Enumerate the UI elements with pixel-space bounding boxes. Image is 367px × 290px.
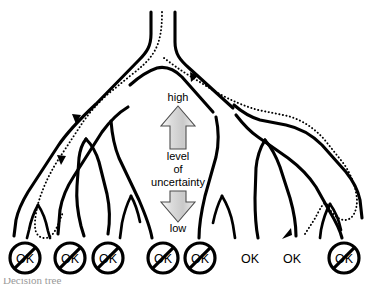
gauge-high-label: high: [168, 91, 189, 103]
gauge-down-arrow-icon: [161, 191, 195, 222]
right-branch-inner-edge: [236, 115, 342, 238]
gauge-level-label: level: [167, 150, 190, 162]
fork-inner-left: [130, 67, 213, 112]
center-left-branch: [111, 121, 152, 238]
leaf-marker-rejected[interactable]: OK: [55, 243, 85, 273]
left-outer-twig-right: [38, 205, 50, 238]
figure-root: high level of uncertainty low OKOKOKOKOK…: [0, 0, 367, 290]
uncertainty-tree-diagram: high level of uncertainty low OKOKOKOKOK…: [0, 0, 367, 290]
dotted-route-main: [35, 12, 162, 238]
leaf-ok-label: OK: [283, 252, 302, 266]
leaf-marker-rejected[interactable]: OK: [10, 243, 40, 273]
uncertainty-traversal-path: [35, 12, 357, 238]
leaf-marker-rejected[interactable]: OK: [329, 243, 359, 273]
gauge-uncertainty-label: uncertainty: [151, 176, 205, 188]
leaf-marker-rejected[interactable]: OK: [185, 243, 215, 273]
right-outer-twig-left: [320, 204, 330, 238]
center-right-twig-right: [222, 196, 235, 238]
uncertainty-gauge: high level of uncertainty low: [151, 91, 205, 234]
leaf-ok-label: OK: [241, 252, 260, 266]
caption-text: Decision tree: [3, 278, 61, 286]
gauge-up-arrow-icon: [161, 106, 195, 149]
center-right-twig-left: [213, 196, 222, 223]
leaf-marker-rejected[interactable]: OK: [148, 243, 178, 273]
right-branch-outer-edge: [234, 105, 362, 218]
caption-strip: Decision tree: [0, 278, 367, 290]
leaf-marker-accepted[interactable]: OK: [283, 252, 302, 266]
right-secondary-branch-left: [255, 140, 265, 238]
gauge-low-label: low: [170, 222, 187, 234]
leaf-marker-row: OKOKOKOKOKOKOKOK: [10, 243, 359, 273]
gauge-of-label: of: [173, 163, 183, 175]
left-branch-inner-edge: [58, 107, 128, 234]
leaf-marker-accepted[interactable]: OK: [241, 252, 260, 266]
leaf-marker-rejected[interactable]: OK: [93, 243, 123, 273]
arrow-bottom-right-icon: [282, 228, 292, 239]
left-secondary-branch-left: [77, 139, 86, 236]
center-left-twig-left: [120, 196, 131, 238]
